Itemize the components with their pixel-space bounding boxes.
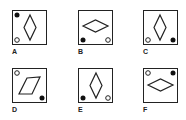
option-d[interactable] (12, 68, 48, 104)
diamond-horizontal-icon (83, 20, 108, 32)
option-a-label: A (12, 48, 17, 55)
option-f[interactable] (143, 68, 179, 104)
hollow-dot-icon (15, 38, 20, 43)
filled-dot-icon (171, 71, 176, 76)
diamond-vertical-icon (24, 15, 36, 40)
option-a[interactable] (12, 10, 48, 46)
option-e[interactable] (78, 68, 114, 104)
parallelogram-icon (19, 77, 40, 94)
filled-dot-icon (40, 96, 45, 101)
hollow-dot-icon (106, 38, 111, 43)
filled-dot-icon (15, 13, 20, 18)
filled-dot-icon (81, 96, 86, 101)
hollow-dot-icon (146, 38, 151, 43)
hollow-dot-icon (15, 71, 20, 76)
option-e-box (78, 68, 113, 103)
diamond-vertical-icon (90, 73, 102, 98)
option-d-label: D (12, 106, 17, 113)
option-d-box (12, 68, 47, 103)
filled-dot-icon (171, 38, 176, 43)
hollow-dot-icon (106, 96, 111, 101)
option-b-box (78, 10, 113, 45)
option-e-label: E (78, 106, 83, 113)
hollow-dot-icon (146, 71, 151, 76)
diamond-vertical-icon (154, 15, 166, 40)
filled-dot-icon (81, 38, 86, 43)
option-f-box (143, 68, 178, 103)
option-c-box (143, 10, 178, 45)
option-b-label: B (78, 48, 83, 55)
diamond-horizontal-icon (148, 79, 173, 91)
option-a-box (12, 10, 47, 45)
option-c[interactable] (143, 10, 179, 46)
option-b[interactable] (78, 10, 114, 46)
option-f-label: F (143, 106, 147, 113)
option-c-label: C (143, 48, 148, 55)
